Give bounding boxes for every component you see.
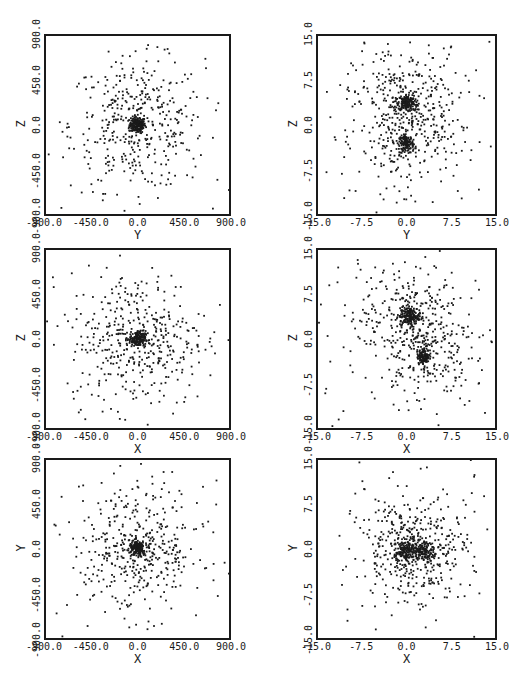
y-tick-label: 7.5 — [303, 70, 314, 88]
y-tick-label: 15.0 — [303, 236, 314, 260]
x-tick-label: 0.0 — [128, 217, 146, 228]
y-tick-label: 900.0 — [31, 443, 42, 473]
y-axis-label: Z — [286, 334, 300, 341]
x-tick-label: -450.0 — [73, 431, 109, 442]
plot-frame-bottom-right — [316, 458, 497, 640]
y-axis-label: Y — [286, 544, 300, 551]
y-tick-label: -7.5 — [303, 158, 314, 182]
y-tick-label: -7.5 — [303, 372, 314, 396]
x-tick-label: 450.0 — [169, 641, 199, 652]
x-tick-label: -450.0 — [73, 217, 109, 228]
plot-frame-middle-right — [316, 248, 497, 430]
y-tick-label: 450.0 — [31, 488, 42, 518]
y-axis-label: Z — [286, 120, 300, 127]
scatter-points — [46, 460, 229, 638]
x-axis-label: X — [134, 442, 141, 456]
y-tick-label: 450.0 — [31, 278, 42, 308]
y-tick-label: 0.0 — [31, 540, 42, 558]
x-tick-label: -450.0 — [73, 641, 109, 652]
x-tick-label: 0.0 — [128, 431, 146, 442]
x-tick-label: -7.5 — [349, 431, 373, 442]
x-tick-label: 900.0 — [216, 217, 246, 228]
y-tick-label: 7.5 — [303, 494, 314, 512]
y-tick-label: -450.0 — [31, 366, 42, 402]
x-tick-label: -7.5 — [349, 217, 373, 228]
x-tick-label: 15.0 — [485, 217, 509, 228]
x-axis-label: X — [403, 652, 410, 666]
y-tick-label: 0.0 — [303, 540, 314, 558]
y-axis-label: Z — [14, 334, 28, 341]
y-tick-label: 900.0 — [31, 233, 42, 263]
y-tick-label: -15.0 — [303, 415, 314, 445]
scatter-points — [318, 460, 495, 638]
y-tick-label: 0.0 — [303, 116, 314, 134]
x-tick-label: 450.0 — [169, 431, 199, 442]
x-axis-label: Y — [403, 228, 410, 242]
y-tick-label: -15.0 — [303, 201, 314, 231]
x-tick-label: 15.0 — [485, 641, 509, 652]
x-tick-label: 450.0 — [169, 217, 199, 228]
plot-frame-bottom-left — [44, 458, 231, 640]
y-tick-label: 0.0 — [303, 330, 314, 348]
x-tick-label: 0.0 — [128, 641, 146, 652]
x-tick-label: 900.0 — [216, 641, 246, 652]
y-tick-label: 0.0 — [31, 116, 42, 134]
x-tick-label: 0.0 — [397, 217, 415, 228]
x-axis-label: Y — [134, 228, 141, 242]
y-tick-label: 7.5 — [303, 284, 314, 302]
scatter-points — [46, 36, 229, 214]
y-tick-label: 0.0 — [31, 330, 42, 348]
plot-frame-top-right — [316, 34, 497, 216]
y-tick-label: -15.0 — [303, 625, 314, 655]
y-tick-label: 450.0 — [31, 64, 42, 94]
y-tick-label: 15.0 — [303, 446, 314, 470]
x-tick-label: 900.0 — [216, 431, 246, 442]
x-tick-label: 7.5 — [443, 217, 461, 228]
y-tick-label: 900.0 — [31, 19, 42, 49]
x-tick-label: 0.0 — [397, 431, 415, 442]
y-tick-label: -450.0 — [31, 152, 42, 188]
plot-frame-top-left — [44, 34, 231, 216]
y-tick-label: -900.0 — [31, 622, 42, 658]
y-tick-label: 15.0 — [303, 22, 314, 46]
x-axis-label: X — [134, 652, 141, 666]
plot-frame-middle-left — [44, 248, 231, 430]
x-tick-label: 7.5 — [443, 431, 461, 442]
x-tick-label: 0.0 — [397, 641, 415, 652]
x-tick-label: -7.5 — [349, 641, 373, 652]
scatter-points — [46, 250, 229, 428]
y-axis-label: Y — [14, 544, 28, 551]
y-axis-label: Z — [14, 120, 28, 127]
x-tick-label: 7.5 — [443, 641, 461, 652]
y-tick-label: -900.0 — [31, 198, 42, 234]
scatter-points — [318, 36, 495, 214]
scatter-points — [318, 250, 495, 428]
x-axis-label: X — [403, 442, 410, 456]
y-tick-label: -450.0 — [31, 576, 42, 612]
x-tick-label: 15.0 — [485, 431, 509, 442]
y-tick-label: -7.5 — [303, 582, 314, 606]
